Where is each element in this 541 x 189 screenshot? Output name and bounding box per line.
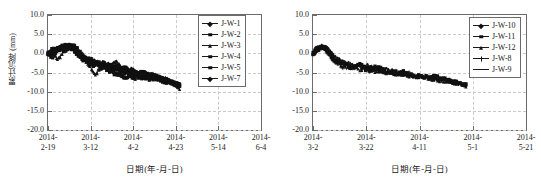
legend-marker-icon: [479, 56, 484, 61]
legend-item[interactable]: J-W-7: [202, 73, 241, 84]
x-tick-label-monthday: 3-22: [357, 143, 376, 153]
y-tick-label: -15.0: [292, 107, 309, 115]
legend-line-sample: [473, 21, 489, 30]
legend-item-label: J-W-10: [492, 22, 516, 30]
y-tick-label: 10.0: [295, 11, 309, 19]
x-tick-label-monthday: 6-4: [252, 143, 271, 153]
legend-marker-icon: [208, 76, 213, 81]
settlement-charts-figure: 累计沉降 (mm) 10.05.00.0-5.0-10.0-15.0-20.02…: [0, 0, 541, 189]
series-marker: [358, 63, 361, 66]
x-tick-label: 2014-5-21: [517, 133, 536, 153]
y-tick-label: -5.0: [31, 69, 44, 77]
x-tick-mark: [526, 126, 527, 130]
legend-item[interactable]: J-W-1: [202, 18, 241, 29]
legend-item[interactable]: J-W-10: [473, 20, 516, 31]
legend-item[interactable]: J-W-8: [473, 53, 516, 64]
legend-marker-icon: [479, 35, 483, 39]
x-tick-label-monthday: 4-23: [166, 143, 185, 153]
left-legend: J-W-1J-W-2J-W-3J-W-4J-W-5J-W-7: [198, 15, 246, 87]
y-tick-label: 0.0: [299, 49, 309, 57]
y-tick-label: -10.0: [292, 88, 309, 96]
legend-item-label: J-W-8: [492, 55, 512, 63]
series-marker: [51, 56, 54, 59]
x-tick-label-monthday: 2-19: [39, 143, 58, 153]
x-tick-label: 2014-6-4: [252, 133, 271, 153]
x-tick-label: 2014-3-22: [357, 133, 376, 153]
y-tick-label: 0.0: [34, 49, 44, 57]
legend-item-label: J-W-4: [221, 53, 241, 61]
x-tick-label-monthday: 4-2: [124, 143, 143, 153]
legend-line-sample: [202, 52, 218, 61]
legend-line-sample: [473, 65, 489, 74]
legend-marker-icon: [208, 43, 212, 47]
legend-marker-icon: [208, 55, 212, 59]
x-tick-label: 2014-5-14: [209, 133, 228, 153]
x-tick-label-year: 2014-: [252, 133, 271, 143]
legend-line-sample: [202, 41, 218, 50]
legend-item[interactable]: J-W-4: [202, 51, 241, 62]
legend-item[interactable]: J-W-2: [202, 29, 241, 40]
legend-item-label: J-W-2: [221, 31, 241, 39]
gridline-horizontal: [48, 130, 261, 131]
x-tick-label-year: 2014-: [124, 133, 143, 143]
x-tick-label-year: 2014-: [517, 133, 536, 143]
series-marker: [312, 52, 315, 55]
x-tick-label-year: 2014-: [166, 133, 185, 143]
x-tick-label-year: 2014-: [39, 133, 58, 143]
y-tick-label: -15.0: [27, 107, 44, 115]
x-tick-label-monthday: 5-1: [463, 143, 482, 153]
legend-item-label: J-W-11: [492, 33, 515, 41]
legend-item-label: J-W-5: [221, 64, 241, 72]
x-tick-label: 2014-2-19: [39, 133, 58, 153]
y-tick-mark: [48, 130, 52, 131]
legend-marker-icon: [479, 45, 483, 49]
x-tick-label-monthday: 3-2: [304, 143, 323, 153]
legend-item-label: J-W-9: [492, 66, 512, 74]
legend-line-sample: [202, 30, 218, 39]
legend-line-sample: [473, 32, 489, 41]
legend-line-sample: [202, 19, 218, 28]
legend-marker-icon: [208, 21, 213, 26]
right-x-axis-title: 日期(年-月-日): [312, 165, 527, 174]
legend-line-sample: [473, 43, 489, 52]
x-tick-label-monthday: 5-14: [209, 143, 228, 153]
x-tick-label: 2014-4-11: [410, 133, 429, 153]
x-tick-label: 2014-3-12: [81, 133, 100, 153]
x-tick-label-year: 2014-: [463, 133, 482, 143]
left-y-axis-title: 累计沉降 (mm): [9, 33, 17, 85]
series-marker: [329, 52, 332, 55]
left-x-axis-title: 日期(年-月-日): [47, 165, 262, 174]
x-tick-mark: [261, 126, 262, 130]
series-marker: [133, 78, 136, 81]
y-tick-mark: [313, 130, 317, 131]
y-tick-label: -5.0: [296, 69, 309, 77]
x-tick-label-year: 2014-: [410, 133, 429, 143]
x-tick-label-monthday: 5-21: [517, 143, 536, 153]
right-chart-panel: 累计沉降 (mm) 10.05.00.0-5.0-10.0-15.0-20.02…: [271, 0, 541, 189]
legend-item-label: J-W-1: [221, 20, 241, 28]
legend-item[interactable]: J-W-12: [473, 42, 516, 53]
legend-marker-icon: [479, 23, 484, 28]
x-tick-label: 2014-3-2: [304, 133, 323, 153]
series-marker: [430, 75, 433, 78]
x-tick-label-year: 2014-: [357, 133, 376, 143]
legend-item-label: J-W-3: [221, 42, 241, 50]
x-tick-label-monthday: 3-12: [81, 143, 100, 153]
x-tick-label-monthday: 4-11: [410, 143, 429, 153]
legend-item[interactable]: J-W-11: [473, 31, 516, 42]
legend-marker-icon: [208, 66, 212, 70]
y-tick-label: 5.0: [34, 30, 44, 38]
legend-item[interactable]: J-W-5: [202, 62, 241, 73]
legend-item-label: J-W-7: [221, 75, 241, 83]
series-marker: [383, 68, 386, 71]
x-tick-label-year: 2014-: [209, 133, 228, 143]
series-marker: [464, 83, 467, 86]
legend-item-label: J-W-12: [492, 44, 516, 52]
x-tick-label: 2014-5-1: [463, 133, 482, 153]
legend-line-sample: [202, 63, 218, 72]
legend-item[interactable]: J-W-9: [473, 64, 516, 75]
x-tick-label: 2014-4-23: [166, 133, 185, 153]
legend-marker-icon: [208, 33, 212, 37]
gridline-horizontal: [313, 130, 526, 131]
legend-item[interactable]: J-W-3: [202, 40, 241, 51]
